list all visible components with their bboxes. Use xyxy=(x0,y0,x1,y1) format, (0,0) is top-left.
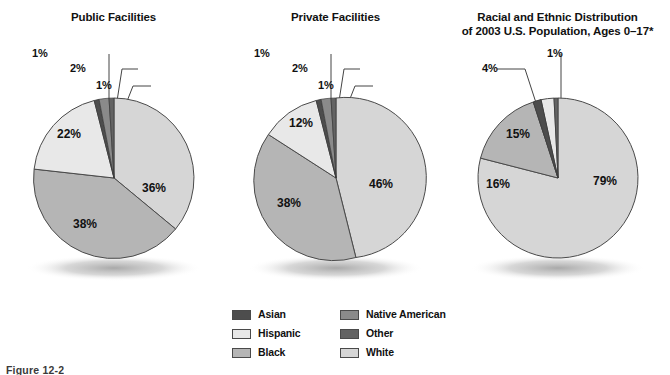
chart-title-private: Private Facilities xyxy=(224,10,447,24)
chart-title-public: Public Facilities xyxy=(2,10,225,24)
slice-label-black-public: 38% xyxy=(72,217,96,231)
legend-column-left: Asian Hispanic Black xyxy=(232,306,301,363)
slice-label-hispanic-public: 22% xyxy=(56,127,80,141)
chart-title-population: Racial and Ethnic Distribution of 2003 U… xyxy=(446,10,669,38)
legend-label-black: Black xyxy=(258,347,285,358)
legend-column-right: Native American Other White xyxy=(340,306,446,363)
legend-item-black: Black xyxy=(232,344,301,361)
legend-item-other: Other xyxy=(340,325,446,342)
legend-item-native-american: Native American xyxy=(340,306,446,323)
legend-swatch-other-icon xyxy=(340,329,359,339)
legend-label-white: White xyxy=(366,347,394,358)
legend-label-asian: Asian xyxy=(258,309,286,320)
pie-svg-private: 46% 12% 38% xyxy=(231,40,441,290)
pie-public-facilities: 36% 22% 38% xyxy=(9,40,219,290)
slice-label-black-private: 38% xyxy=(276,196,300,210)
pie-slices-private xyxy=(253,97,426,260)
chart-panel-public-facilities: Public Facilities xyxy=(2,0,225,310)
chart-title-population-line2: of 2003 U.S. Population, Ages 0–17* xyxy=(446,24,669,38)
callout-other-private: 1% xyxy=(318,79,334,91)
legend-swatch-black-icon xyxy=(232,348,251,358)
legend-label-native-american: Native American xyxy=(366,309,446,320)
pie-private-facilities: 46% 12% 38% xyxy=(231,40,441,290)
slice-label-white-public: 36% xyxy=(141,181,165,195)
callout-asian-population: 4% xyxy=(482,62,498,74)
legend-item-hispanic: Hispanic xyxy=(232,325,301,342)
pie-shadow xyxy=(470,255,646,281)
pie-us-population: 79% 15% 16% xyxy=(453,40,663,290)
callout-other-public: 1% xyxy=(96,79,112,91)
chart-title-public-line1: Public Facilities xyxy=(71,11,156,23)
chart-panel-us-population: Racial and Ethnic Distribution of 2003 U… xyxy=(446,0,669,310)
pie-svg-population: 79% 15% 16% xyxy=(453,40,663,290)
slice-label-hispanic-population: 15% xyxy=(505,127,529,141)
legend-swatch-asian-icon xyxy=(232,310,251,320)
callout-asian-public: 1% xyxy=(32,47,48,59)
legend-label-other: Other xyxy=(366,328,393,339)
chart-title-private-line1: Private Facilities xyxy=(291,11,380,23)
legend-swatch-native-american-icon xyxy=(340,310,359,320)
callout-asian-private: 1% xyxy=(254,47,270,59)
chart-panel-private-facilities: Private Facilities xyxy=(224,0,447,310)
callout-native-american-private: 2% xyxy=(292,62,308,74)
slice-label-hispanic-private: 12% xyxy=(288,116,312,130)
legend-label-hispanic: Hispanic xyxy=(258,328,301,339)
chart-title-population-line1: Racial and Ethnic Distribution xyxy=(477,11,638,23)
slice-label-white-private: 46% xyxy=(368,177,392,191)
legend-swatch-hispanic-icon xyxy=(232,329,251,339)
slice-label-white-population: 79% xyxy=(592,174,616,188)
chart-legend: Asian Hispanic Black Native American Oth… xyxy=(232,306,482,362)
pie-svg-public: 36% 22% 38% xyxy=(9,40,219,290)
legend-item-white: White xyxy=(340,344,446,361)
callout-other-population: 1% xyxy=(547,47,563,59)
slice-label-black-population: 16% xyxy=(485,177,509,191)
legend-item-asian: Asian xyxy=(232,306,301,323)
callout-native-american-public: 2% xyxy=(70,62,86,74)
pie-slices-public xyxy=(33,98,193,259)
figure-caption: Figure 12-2 xyxy=(6,364,64,375)
legend-swatch-white-icon xyxy=(340,348,359,358)
figure-container: Public Facilities xyxy=(0,0,670,375)
